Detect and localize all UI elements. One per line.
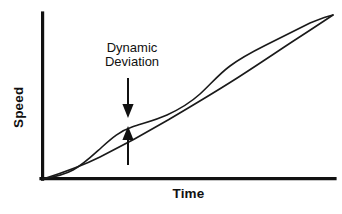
deviation-arrow-up-head (122, 126, 133, 140)
plot-canvas (0, 0, 342, 214)
y-axis-label: Speed (0, 0, 40, 214)
y-axis-label-text: Speed (13, 86, 28, 128)
dynamic-deviation-figure: Speed Time Dynamic Deviation (0, 0, 342, 214)
reference-curve (43, 15, 333, 179)
actual-response-curve (43, 15, 333, 179)
deviation-arrow-down-head (122, 104, 133, 118)
annotation-line-1: Dynamic (88, 41, 176, 55)
annotation-line-2: Deviation (88, 55, 176, 69)
x-axis-label: Time (42, 187, 335, 202)
dynamic-deviation-annotation: Dynamic Deviation (88, 41, 176, 69)
